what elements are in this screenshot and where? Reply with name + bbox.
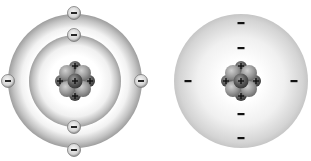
electron-icon xyxy=(291,80,298,82)
electron-icon xyxy=(238,137,245,139)
electron-icon xyxy=(68,121,81,134)
electron-icon xyxy=(68,29,81,42)
electron-icon xyxy=(238,47,245,49)
electron-icon xyxy=(185,80,192,82)
bohr-model xyxy=(2,7,148,157)
atom-models-diagram xyxy=(0,0,311,161)
electron-icon xyxy=(238,22,245,24)
electron-icon xyxy=(68,7,81,20)
electron-icon xyxy=(68,144,81,157)
electron-icon xyxy=(2,75,15,88)
electron-cloud-model xyxy=(174,14,308,148)
electron-icon xyxy=(238,113,245,115)
electron-icon xyxy=(135,75,148,88)
